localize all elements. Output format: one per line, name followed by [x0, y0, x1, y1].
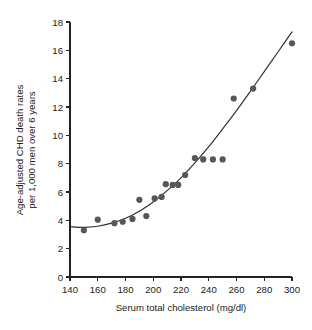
y-axis-title-line1: Age-adjusted CHD death rates — [14, 84, 25, 215]
data-point — [250, 85, 256, 91]
data-point — [220, 156, 226, 162]
x-axis-title: Serum total cholesterol (mg/dl) — [116, 302, 247, 313]
data-point — [111, 220, 117, 226]
x-tick-label: 280 — [256, 284, 272, 295]
data-point — [129, 216, 135, 222]
y-tick-label: 10 — [52, 130, 63, 141]
x-tick-label: 220 — [173, 284, 189, 295]
chd-cholesterol-scatter-plot: 024681012141618 140160180200220240260280… — [0, 0, 312, 330]
y-tick-label: 2 — [58, 243, 63, 254]
data-point — [163, 181, 169, 187]
data-point — [200, 156, 206, 162]
y-tick-label: 18 — [52, 17, 63, 28]
x-tick-label: 180 — [117, 284, 133, 295]
y-axis-group: 024681012141618 — [52, 17, 70, 283]
data-point — [143, 213, 149, 219]
data-point — [120, 219, 126, 225]
data-point — [95, 217, 101, 223]
y-tick-label: 6 — [58, 187, 63, 198]
x-axis-group: 140160180200220240260280300 — [62, 277, 300, 295]
data-point — [182, 172, 188, 178]
data-point — [170, 182, 176, 188]
y-tick-label: 14 — [52, 73, 63, 84]
data-point — [175, 182, 181, 188]
x-tick-label: 300 — [284, 284, 300, 295]
x-tick-group: 140160180200220240260280300 — [62, 277, 300, 295]
data-point — [158, 194, 164, 200]
x-tick-label: 160 — [90, 284, 106, 295]
fitted-curve — [70, 32, 292, 228]
chart-figure: 024681012141618 140160180200220240260280… — [0, 0, 312, 330]
y-tick-label: 8 — [58, 158, 63, 169]
y-tick-group: 024681012141618 — [52, 17, 70, 283]
data-point — [152, 195, 158, 201]
data-point — [210, 156, 216, 162]
y-tick-label: 12 — [52, 102, 63, 113]
y-tick-label: 4 — [58, 215, 64, 226]
data-points-group — [81, 40, 295, 233]
x-tick-label: 200 — [145, 284, 161, 295]
data-point — [192, 155, 198, 161]
data-point — [289, 40, 295, 46]
y-axis-title-line2: per 1,000 men over 6 years — [26, 91, 37, 209]
x-tick-label: 140 — [62, 284, 78, 295]
y-tick-label: 16 — [52, 45, 63, 56]
data-point — [81, 227, 87, 233]
x-tick-label: 240 — [201, 284, 217, 295]
data-point — [231, 95, 237, 101]
y-tick-label: 0 — [58, 272, 63, 283]
x-tick-label: 260 — [228, 284, 244, 295]
data-point — [136, 197, 142, 203]
